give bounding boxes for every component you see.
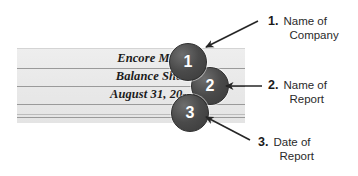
company-name-line: Encore Music — [17, 49, 193, 67]
ledger-rule-4 — [17, 114, 245, 115]
statement-heading: Encore Music Balance Sheet August 31, 20… — [17, 48, 193, 103]
annotation-3-text: Date of Report — [273, 135, 314, 163]
callout-badge-3[interactable]: 3 — [171, 94, 209, 132]
annotation-3-line2: Report — [273, 149, 314, 163]
report-date-line: August 31, 20-- — [17, 85, 193, 103]
callout-badge-1[interactable]: 1 — [169, 43, 207, 81]
report-name-line: Balance Sheet — [17, 67, 193, 85]
annotation-2: 2. Name of Report — [268, 78, 327, 106]
arrow-to-callout-1 — [206, 21, 258, 47]
ledger-rule-5 — [17, 117, 245, 118]
annotation-1: 1. Name of Company — [268, 14, 339, 42]
annotation-2-line1: Name of — [283, 79, 326, 91]
annotation-1-line2: Company — [283, 28, 338, 42]
diagram-canvas: Encore Music Balance Sheet August 31, 20… — [0, 0, 358, 176]
annotation-3-number: 3. — [258, 135, 268, 149]
annotation-2-number: 2. — [268, 78, 278, 92]
annotation-2-line2: Report — [283, 92, 326, 106]
annotation-2-text: Name of Report — [283, 78, 326, 106]
annotation-1-text: Name of Company — [283, 14, 338, 42]
annotation-1-line1: Name of — [283, 15, 326, 27]
annotation-3-line1: Date of — [273, 136, 310, 148]
annotation-1-number: 1. — [268, 14, 278, 28]
annotation-3: 3. Date of Report — [258, 135, 314, 163]
